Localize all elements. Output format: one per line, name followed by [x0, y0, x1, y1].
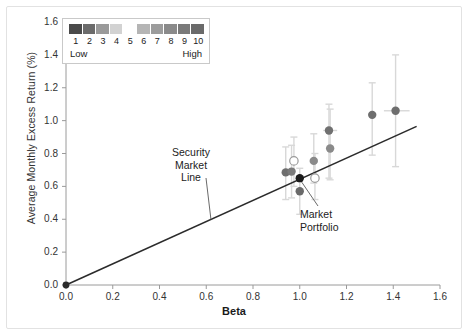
legend-swatch-7	[151, 24, 165, 34]
data-point	[310, 157, 318, 165]
annotation-market-portfolio: Market Portfolio	[300, 208, 378, 233]
annotation-sml-line2: Market	[148, 159, 234, 172]
data-point	[326, 144, 334, 152]
legend-swatch-3	[96, 24, 110, 34]
data-point	[290, 157, 298, 165]
annotation-sml-line3: Line	[148, 171, 234, 184]
legend-decile-numbers: 12345678910	[69, 36, 205, 46]
legend-number-4: 4	[110, 36, 124, 46]
legend-swatch-1	[69, 24, 83, 34]
legend-number-6: 6	[137, 36, 151, 46]
annotation-mp-line1: Market	[300, 208, 378, 221]
annotation-mp-line2: Portfolio	[300, 221, 378, 234]
legend-number-7: 7	[151, 36, 165, 46]
legend-swatch-4	[110, 24, 124, 34]
data-point	[325, 126, 333, 134]
legend-swatch-6	[137, 24, 151, 34]
legend-high-label: High	[182, 48, 202, 59]
data-point	[311, 174, 319, 182]
legend-swatch-2	[83, 24, 97, 34]
data-points-group	[282, 107, 400, 196]
legend-swatch-9	[178, 24, 192, 34]
decile-legend: 12345678910 Low High	[62, 18, 210, 64]
data-point	[296, 187, 304, 195]
legend-swatch-8	[164, 24, 178, 34]
legend-number-8: 8	[164, 36, 178, 46]
legend-swatch-10	[191, 24, 205, 34]
data-point	[368, 111, 376, 119]
data-point	[391, 107, 399, 115]
legend-number-10: 10	[191, 36, 205, 46]
legend-number-1: 1	[69, 36, 83, 46]
figure-root: Average Monthly Excess Return (%) Beta 0…	[0, 0, 468, 335]
annotation-sml-line1: Security	[148, 146, 234, 159]
legend-number-9: 9	[178, 36, 192, 46]
legend-number-2: 2	[83, 36, 97, 46]
legend-color-swatches	[69, 24, 205, 34]
legend-number-3: 3	[96, 36, 110, 46]
data-point	[287, 167, 295, 175]
market-portfolio-point	[296, 174, 304, 182]
legend-swatch-5	[123, 24, 137, 34]
annotation-security-market-line: Security Market Line	[148, 146, 234, 184]
legend-low-label: Low	[70, 48, 87, 59]
legend-number-5: 5	[123, 36, 137, 46]
